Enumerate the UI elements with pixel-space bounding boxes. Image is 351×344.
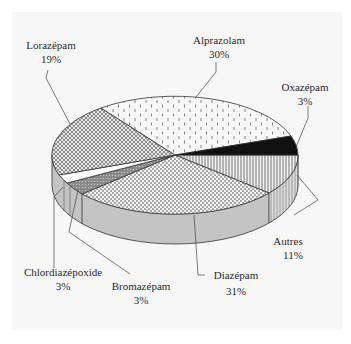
label-diazepam-pct: 31% [214,284,259,298]
label-alprazolam: Alprazolam 30% [193,33,245,61]
label-autres-pct: 11% [273,248,303,262]
label-diazepam-name: Diazépam [214,268,259,282]
label-oxazepam-pct: 3% [281,94,328,108]
label-chlordiazepoxide-name: Chlordiazépoxide [24,265,102,279]
label-bromazepam: Bromazépam 3% [112,279,171,307]
leader-oxazepam [296,106,308,147]
label-lorazepam-pct: 19% [26,52,75,66]
label-alprazolam-pct: 30% [193,47,245,61]
label-autres-name: Autres [273,234,303,248]
label-lorazepam-name: Lorazépam [26,38,75,52]
label-autres: Autres 11% [273,234,303,262]
label-alprazolam-name: Alprazolam [193,33,245,47]
label-chlordiazepoxide: Chlordiazépoxide 3% [24,265,102,293]
label-diazepam: Diazépam 31% [214,268,259,298]
label-chlordiazepoxide-pct: 3% [24,279,102,293]
label-lorazepam: Lorazépam 19% [26,38,75,66]
label-bromazepam-name: Bromazépam [112,279,171,293]
leader-lorazepam [46,70,70,124]
label-oxazepam: Oxazépam 3% [281,80,328,108]
label-oxazepam-name: Oxazépam [281,80,328,94]
pie-top [52,96,298,214]
leader-alprazolam [196,62,216,97]
label-bromazepam-pct: 3% [112,293,171,307]
